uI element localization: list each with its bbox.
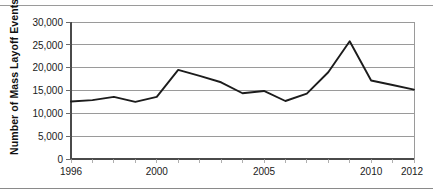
y-axis-title: Number of Mass Layoff Events xyxy=(8,0,20,155)
ytick-label-5000: 5,000 xyxy=(38,131,63,142)
ytick-label-20000: 20,000 xyxy=(32,62,63,73)
ytick-label-25000: 25,000 xyxy=(32,40,63,51)
xtick-label-2010: 2010 xyxy=(360,166,383,177)
x-tick-marks xyxy=(71,159,414,163)
chart-figure: Number of Mass Layoff Events 30,000 xyxy=(0,0,433,196)
ytick-label-15000: 15,000 xyxy=(32,85,63,96)
data-series-line xyxy=(71,41,414,102)
xtick-label-2012: 2012 xyxy=(401,166,424,177)
xtick-label-1996: 1996 xyxy=(60,166,83,177)
line-chart: Number of Mass Layoff Events 30,000 xyxy=(0,0,433,196)
y-tick-marks xyxy=(66,22,71,159)
y-gridlines xyxy=(71,22,414,136)
xtick-label-2005: 2005 xyxy=(253,166,276,177)
ytick-label-30000: 30,000 xyxy=(32,17,63,28)
xtick-label-2000: 2000 xyxy=(146,166,169,177)
ytick-label-10000: 10,000 xyxy=(32,108,63,119)
ytick-label-0: 0 xyxy=(57,154,63,165)
x-tick-labels: 1996 2000 2005 2010 2012 xyxy=(60,166,424,177)
y-tick-labels: 30,000 25,000 20,000 15,000 10,000 5,000… xyxy=(32,17,63,165)
